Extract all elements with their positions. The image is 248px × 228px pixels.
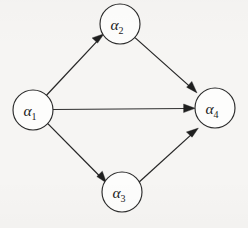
edge-a2-a4-arrowhead — [187, 81, 197, 93]
node-a1[interactable]: α1 — [13, 90, 53, 130]
node-a2[interactable]: α2 — [100, 4, 140, 44]
edge-a3-a4-arrowhead — [186, 128, 198, 137]
edge-a1-a2-line — [47, 40, 99, 96]
edge-a1-a2 — [47, 34, 105, 95]
node-group: α1 α2 α3 α4 — [13, 4, 235, 212]
node-a4-circle[interactable] — [195, 88, 235, 128]
node-a1-circle[interactable] — [13, 90, 53, 130]
edge-a3-a4 — [139, 128, 198, 182]
node-a3[interactable]: α3 — [102, 172, 142, 212]
edge-a1-a3-line — [48, 124, 101, 178]
edge-group — [47, 34, 199, 183]
node-a2-circle[interactable] — [100, 4, 140, 44]
node-a4-label-subscript: 4 — [214, 109, 219, 120]
node-a3-label-subscript: 3 — [121, 193, 126, 204]
node-a1-label-subscript: 1 — [32, 111, 37, 122]
edge-a2-a4-line — [135, 38, 191, 88]
directed-graph: α1 α2 α3 α4 — [0, 0, 248, 228]
edge-a1-a2-arrowhead — [92, 34, 104, 43]
edge-a1-a3 — [48, 124, 107, 183]
node-a3-circle[interactable] — [102, 172, 142, 212]
edge-a1-a4-line — [53, 108, 187, 109]
edge-a1-a4 — [53, 104, 195, 113]
node-a4[interactable]: α4 — [195, 88, 235, 128]
diagram-canvas: α1 α2 α3 α4 — [0, 0, 248, 228]
edge-a3-a4-line — [139, 134, 192, 182]
node-a2-label-subscript: 2 — [119, 25, 124, 36]
edge-a2-a4 — [135, 38, 197, 93]
edge-a1-a4-arrowhead — [184, 104, 196, 113]
